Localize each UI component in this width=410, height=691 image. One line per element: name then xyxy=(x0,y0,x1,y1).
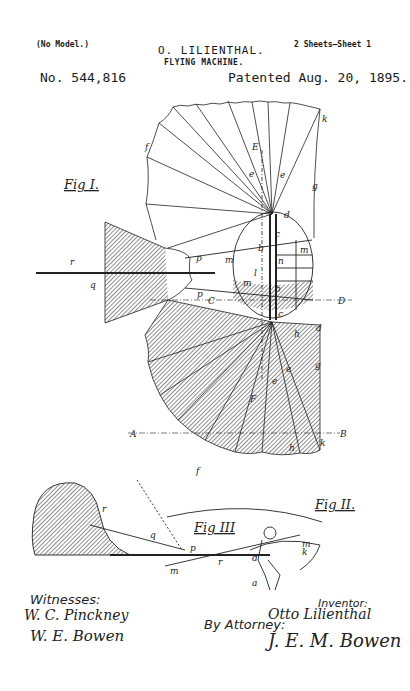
ref-A: A xyxy=(129,429,137,439)
ref-F: F xyxy=(249,394,257,404)
ref-m-left: m xyxy=(225,255,234,265)
ref-h-lower: h xyxy=(289,443,295,453)
ref-k-top: k xyxy=(322,114,327,124)
ref-d-top: d xyxy=(284,210,290,220)
ref-m-fig3-right: m xyxy=(302,539,311,549)
ref-a-fig3: a xyxy=(252,578,257,588)
witness-signature-1: W. C. Pinckney xyxy=(24,607,128,623)
wing-right-edge xyxy=(314,109,320,238)
wing-top-edge xyxy=(173,101,320,109)
ref-r: r xyxy=(70,257,75,267)
ref-f-lower: f xyxy=(195,466,201,476)
ref-g-lower: g xyxy=(315,360,321,370)
ref-C: C xyxy=(208,296,215,306)
fig1-label: Fig I. xyxy=(63,177,99,192)
ref-c-top: c xyxy=(275,229,280,239)
ref-q-fig3: q xyxy=(150,530,156,540)
ref-e-right: e xyxy=(280,170,285,180)
fig3-label: Fig III xyxy=(193,520,236,535)
ref-k-lower: k xyxy=(320,438,325,448)
witness-signature-2: W. E. Bowen xyxy=(30,627,124,645)
witnesses-label: Witnesses: xyxy=(30,592,101,607)
attorney-signature: J. E. M. Bowen xyxy=(268,630,401,651)
ref-p-top: p xyxy=(196,253,202,263)
ref-q: q xyxy=(90,280,96,290)
ref-l: l xyxy=(254,268,257,278)
ref-b-top: b xyxy=(258,243,264,253)
ref-c-lower: c xyxy=(278,309,283,319)
fig2-profile xyxy=(167,509,322,522)
ref-e-lower-2: e xyxy=(272,376,277,386)
ref-m-fig3: m xyxy=(170,566,179,576)
ref-d-fig3: d xyxy=(252,553,258,563)
ref-n: n xyxy=(278,256,284,266)
ref-B: B xyxy=(339,429,347,439)
ref-e-left: e xyxy=(249,169,254,179)
ref-f-top: f xyxy=(144,142,150,152)
ref-h-upper: h xyxy=(294,329,300,339)
ref-E: E xyxy=(251,142,259,152)
ref-m-lower: m xyxy=(243,278,252,288)
ref-p-fig3: p xyxy=(190,543,196,553)
ref-r-fig3: r xyxy=(102,504,107,514)
ref-e-lower-1: e xyxy=(286,364,291,374)
wing-left-edge xyxy=(146,107,173,240)
fig1-lower-wing xyxy=(128,300,340,455)
ref-D: D xyxy=(337,296,345,306)
ref-p-lower: p xyxy=(197,289,203,299)
ref-m-right: m xyxy=(300,245,309,255)
ref-d-lower: d xyxy=(316,323,322,333)
patent-drawing: k f E e e g d c b m p m n r l q m b p C … xyxy=(0,0,410,691)
ref-b-lower: b xyxy=(275,284,281,294)
ref-r-fig3-lower: r xyxy=(218,557,223,567)
ref-g-top: g xyxy=(312,181,318,191)
fig2-label: Fig II. xyxy=(314,497,355,512)
